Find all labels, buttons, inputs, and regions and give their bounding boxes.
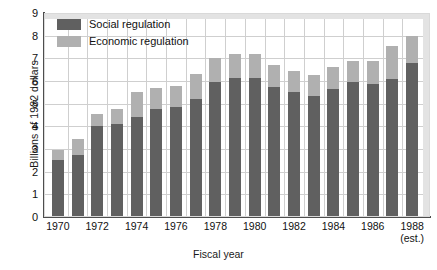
bar-segment-social-1982 bbox=[288, 92, 300, 217]
gridline-x-16 bbox=[383, 13, 384, 217]
x-tick-label-1982: 1982 bbox=[282, 220, 305, 232]
legend-item-economic: Economic regulation bbox=[57, 35, 189, 47]
x-tick-year: 1972 bbox=[86, 220, 109, 232]
x-tick-year: 1974 bbox=[125, 220, 148, 232]
gridline-x-10 bbox=[265, 13, 266, 217]
x-tick-label-1988: 1988(est.) bbox=[400, 220, 424, 245]
y-tick-label-2: 2 bbox=[32, 166, 38, 178]
y-tick-label-6: 6 bbox=[32, 75, 38, 87]
gridline-x-7 bbox=[205, 13, 206, 217]
bar-segment-economic-1974 bbox=[131, 92, 143, 117]
bar-segment-economic-1981 bbox=[268, 65, 280, 87]
x-tick-year: 1982 bbox=[282, 220, 305, 232]
bar-segment-economic-1982 bbox=[288, 71, 300, 93]
bar-1970 bbox=[52, 150, 64, 217]
x-tick-year: 1988 bbox=[400, 220, 423, 232]
economic-swatch-icon bbox=[57, 36, 81, 47]
gridline-x-11 bbox=[284, 13, 285, 217]
bar-segment-economic-1977 bbox=[190, 74, 202, 99]
gridline-x-14 bbox=[343, 13, 344, 217]
bar-segment-social-1981 bbox=[268, 87, 280, 217]
bar-segment-social-1975 bbox=[150, 109, 162, 217]
x-tick-label-1984: 1984 bbox=[322, 220, 345, 232]
bar-segment-economic-1986 bbox=[367, 61, 379, 85]
bar-1977 bbox=[190, 74, 202, 217]
x-tick-label-1970: 1970 bbox=[46, 220, 69, 232]
bar-segment-social-1980 bbox=[249, 78, 261, 217]
x-tick-label-1986: 1986 bbox=[361, 220, 384, 232]
x-tick-year: 1984 bbox=[322, 220, 345, 232]
bar-segment-social-1983 bbox=[308, 96, 320, 217]
chart-figure: Billions of 1982 dollars 0123456789 Soci… bbox=[0, 0, 437, 270]
y-tick-label-4: 4 bbox=[32, 120, 38, 132]
y-tick-label-1: 1 bbox=[32, 188, 38, 200]
bar-segment-economic-1972 bbox=[91, 114, 103, 126]
bar-1972 bbox=[91, 114, 103, 217]
bar-segment-social-1971 bbox=[72, 155, 84, 217]
bar-segment-economic-1984 bbox=[327, 67, 339, 89]
bar-segment-economic-1976 bbox=[170, 86, 182, 108]
gridline-x-8 bbox=[225, 13, 226, 217]
y-tick-label-7: 7 bbox=[32, 52, 38, 64]
bar-segment-economic-1988 bbox=[406, 36, 418, 63]
bar-segment-economic-1971 bbox=[72, 139, 84, 155]
bar-segment-social-1973 bbox=[111, 124, 123, 217]
x-tick-year: 1970 bbox=[46, 220, 69, 232]
chart-legend: Social regulation Economic regulation bbox=[57, 18, 189, 47]
bar-1974 bbox=[131, 92, 143, 217]
x-tick-label-1974: 1974 bbox=[125, 220, 148, 232]
y-axis-title: Billions of 1982 dollars bbox=[28, 14, 40, 214]
bar-1976 bbox=[170, 86, 182, 217]
x-tick-year: 1976 bbox=[164, 220, 187, 232]
bar-segment-social-1986 bbox=[367, 84, 379, 217]
bar-segment-social-1978 bbox=[209, 82, 221, 217]
gridline-x-9 bbox=[245, 13, 246, 217]
y-tick-label-3: 3 bbox=[32, 143, 38, 155]
x-tick-label-1976: 1976 bbox=[164, 220, 187, 232]
bar-1971 bbox=[72, 139, 84, 217]
bar-segment-economic-1979 bbox=[229, 54, 241, 78]
bar-segment-social-1972 bbox=[91, 126, 103, 217]
bar-segment-social-1974 bbox=[131, 117, 143, 217]
legend-label-social: Social regulation bbox=[89, 18, 170, 30]
bar-segment-social-1970 bbox=[52, 160, 64, 217]
y-tick-label-9: 9 bbox=[32, 7, 38, 19]
bar-segment-economic-1985 bbox=[347, 61, 359, 83]
bar-1985 bbox=[347, 61, 359, 217]
bar-1981 bbox=[268, 65, 280, 217]
x-tick-year: 1978 bbox=[204, 220, 227, 232]
x-tick-label-1972: 1972 bbox=[86, 220, 109, 232]
bar-segment-social-1984 bbox=[327, 89, 339, 217]
bar-1986 bbox=[367, 61, 379, 217]
gridline-x-12 bbox=[304, 13, 305, 217]
x-tick-label-1978: 1978 bbox=[204, 220, 227, 232]
bar-segment-economic-1978 bbox=[209, 58, 221, 82]
legend-label-economic: Economic regulation bbox=[89, 35, 189, 47]
y-tick-label-0: 0 bbox=[32, 211, 38, 223]
bar-segment-economic-1983 bbox=[308, 75, 320, 95]
bar-1984 bbox=[327, 67, 339, 217]
bar-segment-social-1977 bbox=[190, 99, 202, 217]
x-tick-year: 1986 bbox=[361, 220, 384, 232]
bar-1987 bbox=[386, 46, 398, 217]
x-axis-title: Fiscal year bbox=[0, 248, 437, 260]
bar-1979 bbox=[229, 54, 241, 217]
y-tick-label-8: 8 bbox=[32, 30, 38, 42]
gridline-x-15 bbox=[363, 13, 364, 217]
bar-1978 bbox=[209, 58, 221, 217]
bar-1982 bbox=[288, 71, 300, 217]
bar-segment-economic-1975 bbox=[150, 88, 162, 110]
bar-1983 bbox=[308, 75, 320, 217]
bar-segment-social-1987 bbox=[386, 79, 398, 217]
bar-segment-economic-1970 bbox=[52, 150, 64, 160]
bar-segment-social-1988 bbox=[406, 63, 418, 217]
bar-1988 bbox=[406, 36, 418, 217]
bar-1980 bbox=[249, 54, 261, 217]
bar-segment-economic-1987 bbox=[386, 46, 398, 79]
bar-segment-economic-1973 bbox=[111, 109, 123, 124]
x-tick-label-1980: 1980 bbox=[243, 220, 266, 232]
x-tick-note: (est.) bbox=[400, 232, 424, 245]
bar-1973 bbox=[111, 109, 123, 217]
gridline-x-17 bbox=[402, 13, 403, 217]
bar-segment-social-1985 bbox=[347, 82, 359, 217]
